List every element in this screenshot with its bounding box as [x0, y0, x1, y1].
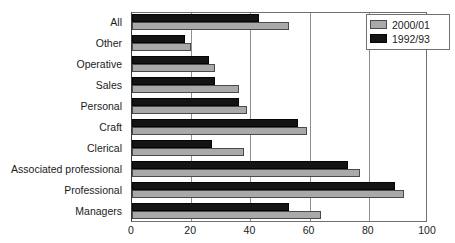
legend-item-old: 1992/93 [370, 32, 446, 45]
bar-group [132, 139, 426, 160]
category-label-associated-professional: Associated professional [0, 164, 122, 175]
bar-1992-93 [132, 98, 239, 106]
chart-legend: 2000/01 1992/93 [366, 14, 450, 50]
value-axis-ticks: 020406080100 [131, 224, 427, 240]
category-label-personal: Personal [0, 101, 122, 112]
bar-2000-01 [132, 169, 360, 177]
bar-1992-93 [132, 203, 289, 211]
x-tick-label-100: 100 [418, 224, 436, 236]
bar-group [132, 76, 426, 97]
legend-label-1992-93: 1992/93 [392, 33, 430, 45]
bar-1992-93 [132, 140, 212, 148]
bar-2000-01 [132, 211, 321, 219]
category-label-craft: Craft [0, 122, 122, 133]
category-label-clerical: Clerical [0, 143, 122, 154]
bar-1992-93 [132, 14, 259, 22]
bar-1992-93 [132, 56, 209, 64]
bar-2000-01 [132, 64, 215, 72]
bar-1992-93 [132, 161, 348, 169]
bar-2000-01 [132, 190, 404, 198]
x-tick-label-60: 60 [303, 224, 315, 236]
bar-2000-01 [132, 85, 239, 93]
bar-group [132, 97, 426, 118]
bar-2000-01 [132, 22, 289, 30]
bar-group [132, 181, 426, 202]
bar-group [132, 202, 426, 223]
category-label-all: All [0, 17, 122, 28]
category-label-operative: Operative [0, 59, 122, 70]
bar-group [132, 118, 426, 139]
bar-1992-93 [132, 119, 298, 127]
bar-2000-01 [132, 106, 247, 114]
category-label-managers: Managers [0, 206, 122, 217]
category-label-professional: Professional [0, 185, 122, 196]
legend-swatch-icon-1992-93 [370, 34, 387, 43]
bar-chart: AllOtherOperativeSalesPersonalCraftCleri… [0, 0, 455, 243]
bar-2000-01 [132, 43, 191, 51]
bar-1992-93 [132, 35, 185, 43]
bar-group [132, 55, 426, 76]
x-tick-label-0: 0 [128, 224, 134, 236]
x-tick-label-20: 20 [184, 224, 196, 236]
bar-group [132, 160, 426, 181]
category-axis-labels: AllOtherOperativeSalesPersonalCraftCleri… [0, 12, 127, 222]
x-tick-label-80: 80 [362, 224, 374, 236]
x-tick-label-40: 40 [244, 224, 256, 236]
bar-1992-93 [132, 77, 215, 85]
category-label-other: Other [0, 38, 122, 49]
legend-label-2000-01: 2000/01 [392, 19, 430, 31]
bar-2000-01 [132, 148, 244, 156]
legend-item-new: 2000/01 [370, 18, 446, 31]
bar-1992-93 [132, 182, 395, 190]
category-label-sales: Sales [0, 80, 122, 91]
legend-swatch-icon-2000-01 [370, 20, 387, 29]
bar-2000-01 [132, 127, 307, 135]
